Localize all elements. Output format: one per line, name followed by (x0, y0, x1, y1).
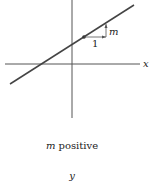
slope-diagram: x 1 m m positive y (0, 0, 150, 181)
caption: m positive (46, 140, 98, 151)
run-arrowhead-icon (102, 36, 106, 39)
x-axis-label: x (143, 58, 149, 69)
y-axis-label: y (68, 170, 75, 181)
caption-text: positive (55, 140, 98, 151)
run-label: 1 (92, 38, 98, 49)
caption-variable: m (46, 140, 55, 151)
rise-label: m (109, 26, 118, 37)
rise-arrowhead-icon (105, 24, 108, 28)
